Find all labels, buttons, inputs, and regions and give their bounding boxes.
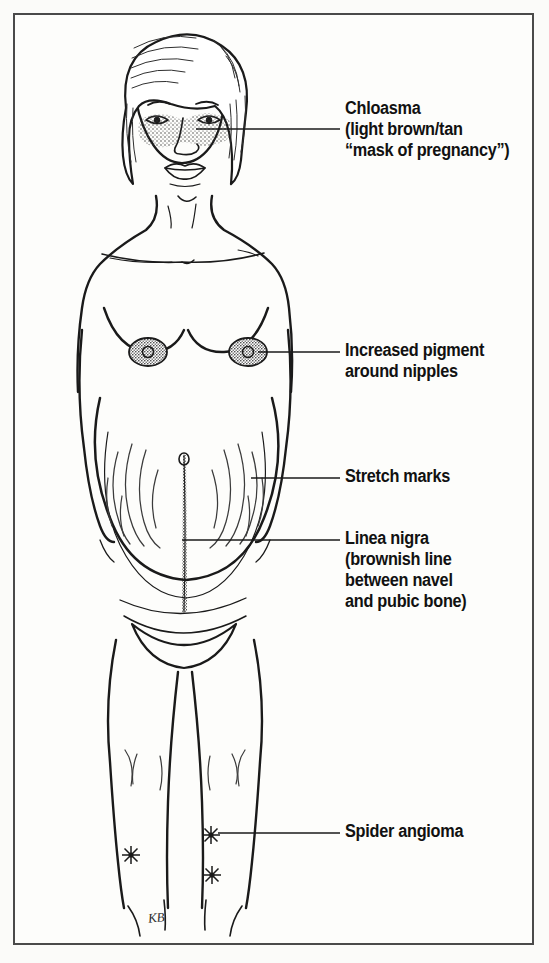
head-group bbox=[122, 34, 247, 186]
spider-angioma-3 bbox=[203, 866, 221, 884]
chin-neck bbox=[178, 196, 196, 201]
label-stretch-marks: Stretch marks bbox=[345, 466, 450, 487]
linea-nigra bbox=[178, 452, 192, 616]
chin-crease bbox=[170, 184, 200, 187]
hand-right bbox=[256, 540, 270, 562]
hand-left bbox=[100, 540, 114, 562]
lips bbox=[165, 164, 205, 179]
label-increased-pigment: Increased pigment around nipples bbox=[345, 340, 484, 382]
label-spider-angioma: Spider angioma bbox=[345, 821, 463, 842]
ankle-left bbox=[128, 906, 140, 936]
areola-left bbox=[128, 337, 170, 369]
body-outline bbox=[78, 34, 293, 936]
neck-line-left bbox=[168, 206, 171, 228]
spider-angiomas bbox=[122, 826, 221, 884]
ankle-right bbox=[230, 906, 242, 936]
artist-signature: KB bbox=[147, 909, 165, 927]
eyebrow-left bbox=[148, 102, 170, 105]
leg-right-outer bbox=[246, 640, 262, 908]
spider-angioma-2 bbox=[202, 826, 220, 844]
label-linea-nigra: Linea nigra (brownish line between navel… bbox=[345, 528, 466, 612]
areola-right bbox=[228, 337, 270, 369]
ankle-inner-right bbox=[205, 900, 206, 930]
pubic-triangle bbox=[132, 624, 236, 668]
neck-line-right bbox=[192, 204, 196, 228]
spider-angioma-1 bbox=[122, 846, 140, 864]
leg-left-inner bbox=[167, 672, 178, 908]
illustration-page: Chloasma (light brown/tan “mask of pregn… bbox=[0, 0, 549, 963]
label-chloasma: Chloasma (light brown/tan “mask of pregn… bbox=[345, 98, 509, 161]
leg-left-outer bbox=[108, 640, 124, 908]
lip-line bbox=[165, 168, 205, 170]
knee-detail bbox=[125, 750, 245, 790]
leg-right-inner bbox=[192, 672, 203, 908]
